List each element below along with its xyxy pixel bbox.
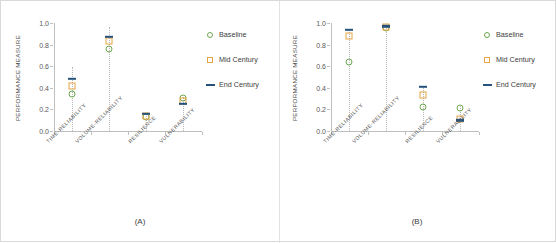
y-axis-label-a: PERFORMANCE MEASURE bbox=[11, 23, 25, 133]
x-tick-mark bbox=[368, 132, 369, 135]
circle-open-icon bbox=[482, 30, 492, 40]
legend-label: Mid Century bbox=[219, 55, 258, 65]
x-tick-mark bbox=[202, 132, 203, 135]
square-open-icon bbox=[205, 55, 215, 65]
plot-area-b: PERFORMANCE MEASURE 1.0 0.8 0.6 0.4 0.2 … bbox=[278, 1, 556, 241]
y-axis-line-a bbox=[54, 23, 55, 131]
legend-label: Baseline bbox=[496, 30, 524, 40]
y-tick-label: 0.2 bbox=[29, 106, 49, 113]
x-category-label: RESILIENCE bbox=[404, 114, 434, 144]
data-point-mid-century bbox=[106, 38, 113, 45]
y-tick-mark bbox=[327, 23, 330, 24]
x-category-label: VULNERABILITY bbox=[158, 106, 196, 144]
y-tick-labels-a: 1.0 0.8 0.6 0.4 0.2 0.0 bbox=[25, 1, 49, 241]
data-point-end-century bbox=[419, 85, 427, 87]
data-point-baseline bbox=[106, 45, 113, 52]
legend-item-baseline[interactable]: Baseline bbox=[482, 30, 524, 40]
legend-item-baseline[interactable]: Baseline bbox=[205, 30, 247, 40]
y-axis-line-b bbox=[331, 23, 332, 131]
data-point-end-century bbox=[179, 103, 187, 105]
plot-area-a: PERFORMANCE MEASURE 1.0 0.8 0.6 0.4 0.2 … bbox=[1, 1, 279, 241]
y-tick-mark bbox=[50, 109, 53, 110]
stem-line bbox=[386, 26, 388, 131]
legend-label: Baseline bbox=[219, 30, 247, 40]
stem-line bbox=[72, 67, 74, 131]
x-tick-mark bbox=[479, 132, 480, 135]
y-tick-label: 0.0 bbox=[29, 128, 49, 135]
y-tick-label: 1.0 bbox=[306, 20, 326, 27]
data-point-mid-century bbox=[69, 82, 76, 89]
y-tick-labels-b: 1.0 0.8 0.6 0.4 0.2 0.0 bbox=[302, 1, 326, 241]
dash-icon bbox=[205, 80, 215, 90]
dash-icon bbox=[482, 80, 492, 90]
x-tick-mark bbox=[128, 132, 129, 135]
data-point-baseline bbox=[346, 58, 353, 65]
y-tick-mark bbox=[327, 66, 330, 67]
y-tick-label: 1.0 bbox=[29, 20, 49, 27]
y-tick-mark bbox=[327, 45, 330, 46]
legend-item-mid-century[interactable]: Mid Century bbox=[482, 55, 535, 65]
y-tick-label: 0.2 bbox=[306, 106, 326, 113]
data-point-mid-century bbox=[346, 33, 353, 40]
x-tick-mark bbox=[91, 132, 92, 135]
legend-label: Mid Century bbox=[496, 55, 535, 65]
data-point-end-century bbox=[142, 112, 150, 114]
legend-item-end-century[interactable]: End Century bbox=[482, 80, 536, 90]
circle-open-icon bbox=[205, 30, 215, 40]
y-tick-label: 0.6 bbox=[306, 63, 326, 70]
data-point-end-century bbox=[345, 28, 353, 30]
y-tick-mark bbox=[50, 88, 53, 89]
y-tick-label: 0.6 bbox=[29, 63, 49, 70]
legend-item-end-century[interactable]: End Century bbox=[205, 80, 259, 90]
chart-panel-b: PERFORMANCE MEASURE 1.0 0.8 0.6 0.4 0.2 … bbox=[278, 1, 555, 241]
legend-item-mid-century[interactable]: Mid Century bbox=[205, 55, 258, 65]
y-tick-label: 0.8 bbox=[306, 41, 326, 48]
panel-caption-a: (A) bbox=[1, 217, 279, 226]
y-axis-label-b: PERFORMANCE MEASURE bbox=[288, 23, 302, 133]
panel-caption-b: (B) bbox=[278, 217, 556, 226]
legend-label: End Century bbox=[219, 80, 259, 90]
data-point-end-century bbox=[382, 25, 390, 27]
y-tick-label: 0.4 bbox=[29, 84, 49, 91]
data-point-end-century bbox=[105, 36, 113, 38]
square-open-icon bbox=[482, 55, 492, 65]
x-category-label: VULNERABILITY bbox=[435, 106, 473, 144]
data-point-baseline bbox=[420, 104, 427, 111]
data-point-baseline bbox=[69, 91, 76, 98]
legend-label: End Century bbox=[496, 80, 536, 90]
data-point-mid-century bbox=[420, 92, 427, 99]
y-tick-mark bbox=[327, 88, 330, 89]
y-tick-label: 0.8 bbox=[29, 41, 49, 48]
y-tick-mark bbox=[50, 66, 53, 67]
y-tick-mark bbox=[50, 23, 53, 24]
y-tick-label: 0.4 bbox=[306, 84, 326, 91]
chart-panel-a: PERFORMANCE MEASURE 1.0 0.8 0.6 0.4 0.2 … bbox=[1, 1, 278, 241]
y-tick-label: 0.0 bbox=[306, 128, 326, 135]
x-tick-mark bbox=[405, 132, 406, 135]
y-tick-mark bbox=[327, 109, 330, 110]
data-point-end-century bbox=[68, 78, 76, 80]
y-tick-mark bbox=[50, 45, 53, 46]
